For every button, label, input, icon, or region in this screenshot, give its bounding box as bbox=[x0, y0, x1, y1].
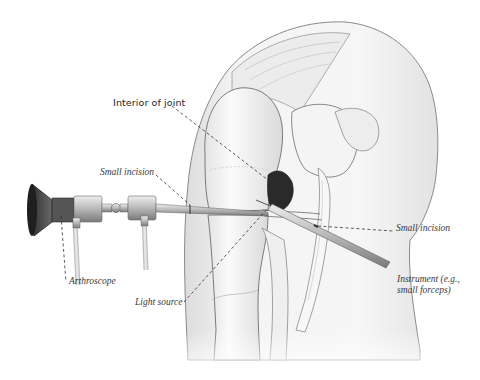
arthroscopy-diagram: Interior of joint Small incision Small i… bbox=[0, 0, 480, 380]
label-interior-of-joint: Interior of joint bbox=[113, 98, 185, 109]
leader-arthroscope bbox=[61, 216, 66, 282]
label-small-incision-left: Small incision bbox=[100, 167, 154, 178]
knee-illustration bbox=[0, 0, 480, 380]
leader-small-incision-left bbox=[156, 175, 190, 205]
label-instrument-line2: small forceps) bbox=[397, 285, 460, 296]
bottom-fade bbox=[180, 330, 440, 380]
label-light-source: Light source bbox=[135, 297, 182, 308]
label-instrument: Instrument (e.g., small forceps) bbox=[397, 274, 460, 296]
label-instrument-line1: Instrument (e.g., bbox=[397, 274, 460, 285]
label-small-incision-right: Small incision bbox=[396, 223, 450, 234]
label-arthroscope: Arthroscope bbox=[69, 276, 116, 287]
